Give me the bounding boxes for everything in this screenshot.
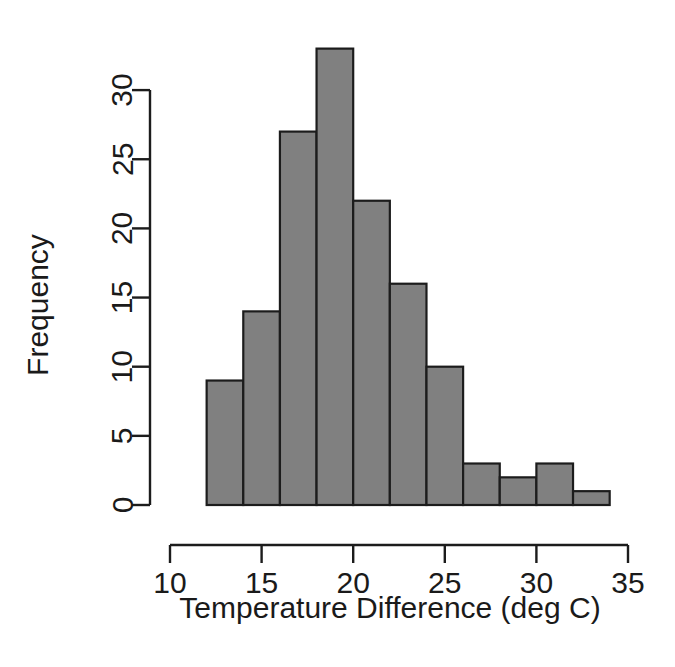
histogram-bar [573, 491, 610, 505]
histogram-bar [426, 367, 463, 505]
y-tick-label: 0 [106, 497, 139, 514]
histogram-bar [463, 464, 500, 505]
y-tick-label: 20 [106, 212, 139, 245]
y-tick-label: 25 [106, 143, 139, 176]
histogram-plot: 051015202530 101520253035 Temperature Di… [0, 0, 675, 667]
y-tick-label: 30 [106, 73, 139, 106]
bars-group [207, 49, 610, 505]
histogram-bar [390, 284, 427, 505]
y-axis-title: Frequency [21, 234, 54, 376]
y-tick-label: 15 [106, 281, 139, 314]
x-axis [170, 545, 628, 563]
y-tick-labels: 051015202530 [106, 73, 139, 513]
histogram-bar [500, 477, 537, 505]
x-axis-title: Temperature Difference (deg C) [179, 591, 600, 624]
y-tick-label: 5 [106, 428, 139, 445]
histogram-bar [317, 49, 354, 505]
histogram-bar [536, 464, 573, 505]
histogram-bar [207, 381, 244, 505]
histogram-bar [243, 311, 280, 505]
histogram-figure: 051015202530 101520253035 Temperature Di… [0, 0, 675, 667]
x-tick-label: 35 [611, 566, 644, 599]
y-tick-label: 10 [106, 350, 139, 383]
histogram-bar [353, 201, 390, 505]
histogram-bar [280, 132, 317, 505]
